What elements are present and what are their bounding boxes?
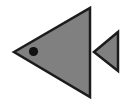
fish-icon	[0, 0, 130, 106]
icon-canvas	[0, 0, 130, 106]
fish-eye-dot	[29, 47, 38, 56]
